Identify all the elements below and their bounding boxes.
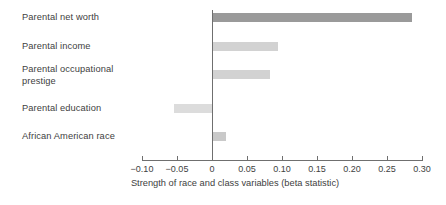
x-axis-title: Strength of race and class variables (be… [0, 178, 446, 188]
x-tick-7 [387, 156, 388, 161]
x-tick-2 [212, 156, 213, 161]
x-tick-3 [247, 156, 248, 161]
bar-parental-occupational-prestige [212, 70, 270, 79]
x-tick-4 [282, 156, 283, 161]
x-tick-label-8: 0.30 [399, 164, 445, 174]
zero-reference-line [212, 10, 213, 161]
bar-parental-education [174, 104, 212, 113]
x-tick-1 [177, 156, 178, 161]
bar-chart: Parental net worth Parental income Paren… [0, 0, 446, 205]
x-axis: −0.10 −0.05 0 0.05 0.10 0.15 0.20 0.25 0… [0, 160, 446, 205]
bar-parental-income [212, 42, 278, 51]
x-tick-5 [317, 156, 318, 161]
x-tick-8 [422, 156, 423, 161]
bar-parental-net-worth [212, 13, 412, 22]
x-tick-6 [352, 156, 353, 161]
x-tick-0 [142, 156, 143, 161]
plot-area [0, 0, 446, 165]
bar-african-american-race [212, 132, 226, 141]
